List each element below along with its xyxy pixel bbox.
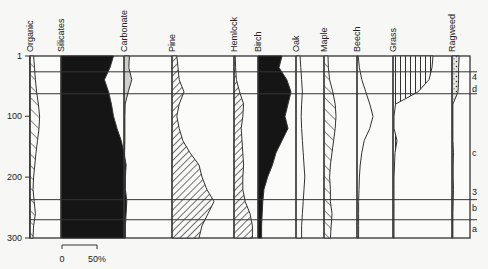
y-tick-label: 100	[7, 111, 22, 121]
y-tick-label: 200	[7, 172, 22, 182]
zone-label: 4	[472, 72, 477, 82]
zone-label: c	[472, 148, 477, 158]
zone-label: 3	[472, 187, 477, 197]
column-header: Hemlock	[229, 16, 239, 52]
column-header: Maple	[319, 27, 329, 52]
scale-bar-end: 50%	[88, 254, 106, 264]
scale-bar	[62, 245, 97, 249]
zone-label: b	[472, 203, 477, 213]
column-header: Oak	[291, 35, 301, 52]
pollen-diagram: OrganicSilicatesCarbonatePineHemlockBirc…	[0, 0, 488, 269]
scale-bar-start: 0	[59, 254, 64, 264]
column-header: Birch	[253, 31, 263, 52]
column-header: Beech	[352, 26, 362, 52]
column-header: Ragweed	[447, 14, 457, 52]
column-header: Carbonate	[119, 10, 129, 52]
column-header: Pine	[167, 34, 177, 52]
y-tick-label: 1	[17, 51, 22, 61]
column-header: Organic	[25, 20, 35, 52]
y-tick-label: 300	[7, 233, 22, 243]
zone-label: a	[472, 224, 477, 234]
column-header: Silicates	[56, 18, 66, 52]
zone-label: d	[472, 84, 477, 94]
column-header: Grass	[388, 27, 398, 52]
